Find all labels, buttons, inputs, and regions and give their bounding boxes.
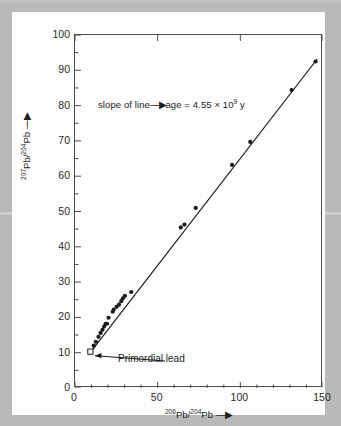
x-axis-title-pb: Pb	[201, 409, 213, 420]
y-axis-tick-label: 20	[40, 311, 70, 322]
slope-annotation-arrow-icon: ──▶	[150, 99, 165, 110]
y-axis-title-pb: Pb	[21, 132, 32, 144]
x-axis-tick-label: 150	[302, 392, 341, 403]
data-point	[313, 59, 317, 63]
y-axis-title-mass-204: 204	[20, 144, 27, 155]
y-axis-tick-label: 0	[40, 382, 70, 393]
y-axis-tick-label: 100	[40, 29, 70, 40]
y-axis-tick-labels: 0102030405060708090100	[38, 34, 70, 387]
x-axis-tick-label: 0	[54, 392, 94, 403]
y-axis-title-arrow-icon: ──▶	[21, 114, 32, 129]
plot-area	[74, 34, 322, 387]
data-point	[289, 88, 293, 92]
y-axis-tick-label: 30	[40, 276, 70, 287]
x-axis-tick-label: 100	[219, 392, 259, 403]
y-axis-tick-label: 60	[40, 170, 70, 181]
data-point	[92, 344, 96, 348]
slope-annotation: slope of line──▶age = 4.55 × 109 y	[98, 98, 245, 110]
data-point	[248, 140, 252, 144]
x-axis-title-mass-206: 206	[165, 408, 176, 415]
y-axis-tick-label: 40	[40, 241, 70, 252]
x-axis-title: 206Pb/204Pb ──▶	[74, 408, 322, 420]
y-axis-tick-label: 90	[40, 64, 70, 75]
primordial-lead-label: Primordial lead	[118, 353, 185, 364]
y-axis-title-mass-207: 207	[20, 169, 27, 180]
slope-annotation-unit: y	[237, 99, 245, 110]
x-axis-title-mass-204: 204	[190, 408, 201, 415]
primordial-lead-marker	[88, 349, 93, 354]
y-axis-tick-label: 70	[40, 135, 70, 146]
data-point	[230, 163, 234, 167]
y-axis-tick-label: 50	[40, 206, 70, 217]
data-point	[96, 335, 100, 339]
figure-card: 0102030405060708090100 050100150 slope o…	[12, 12, 325, 415]
y-axis-title-pb-over: Pb/	[21, 155, 32, 169]
x-axis-title-arrow-icon: ──▶	[216, 409, 231, 420]
data-point	[117, 303, 121, 307]
y-axis-tick-label: 80	[40, 100, 70, 111]
primordial-lead-arrowhead-icon	[95, 353, 102, 358]
data-point	[182, 222, 186, 226]
y-axis-title: 207Pb/204Pb ──▶	[20, 162, 32, 180]
data-point	[94, 340, 98, 344]
data-point	[123, 294, 127, 298]
data-point	[106, 316, 110, 320]
data-point	[129, 290, 133, 294]
isochron-scatter-plot	[75, 35, 323, 388]
x-axis-title-pb-over: Pb/	[176, 409, 190, 420]
scan-artifact-top-strip	[0, 0, 341, 9]
x-axis-tick-label: 50	[137, 392, 177, 403]
data-point	[179, 225, 183, 229]
x-axis-tick-labels: 050100150	[74, 392, 322, 408]
data-point	[194, 206, 198, 210]
slope-annotation-lead-text: slope of line	[98, 99, 150, 110]
y-axis-tick-label: 10	[40, 347, 70, 358]
data-point	[105, 322, 109, 326]
slope-annotation-age-text: age = 4.55 × 10	[165, 99, 233, 110]
